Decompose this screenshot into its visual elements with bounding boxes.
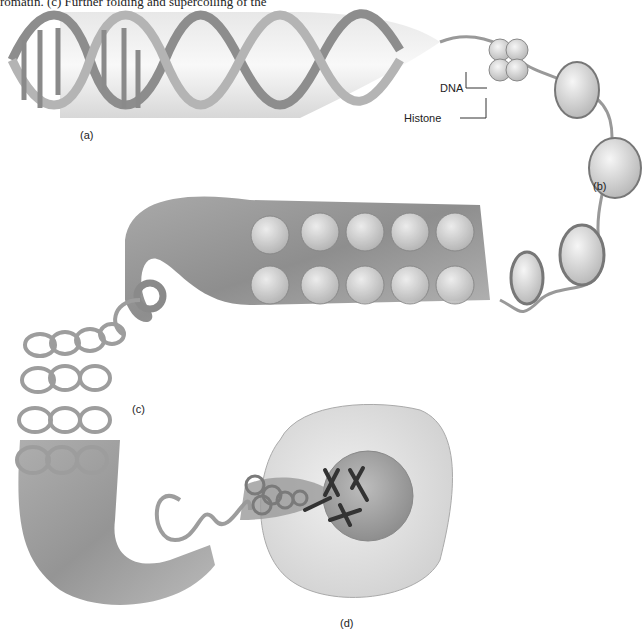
label-histone: Histone <box>404 112 441 124</box>
label-dna: DNA <box>440 82 463 94</box>
chromatin-fiber <box>125 196 490 322</box>
label-d: (d) <box>340 617 353 629</box>
figure-caption: romatin. (c) Further folding and superco… <box>0 0 266 10</box>
label-c: (c) <box>132 403 145 415</box>
dna-helix <box>12 12 440 118</box>
chromatin-diagram <box>0 0 644 633</box>
supercoil <box>17 300 250 605</box>
label-a: (a) <box>80 129 93 141</box>
cell <box>240 404 453 597</box>
label-b: (b) <box>593 180 606 192</box>
histone-octamer <box>489 39 528 81</box>
